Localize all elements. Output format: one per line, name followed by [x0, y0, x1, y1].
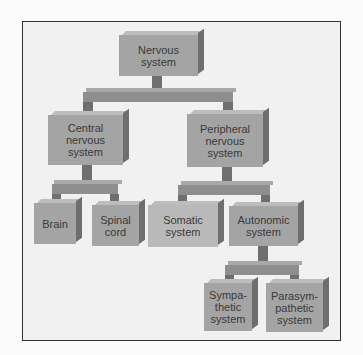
node-label: Sympa- thetic system	[209, 289, 247, 325]
connector-bar	[225, 265, 299, 275]
node-autonomic-system: Autonomic system	[229, 206, 298, 246]
node-label: Autonomic system	[238, 214, 290, 238]
node-label: Parasym- pathetic system	[271, 290, 318, 326]
node-central-nervous-system: Central nervous system	[48, 115, 123, 165]
node-peripheral-nervous-system: Peripheral nervous system	[187, 114, 263, 167]
node-sympathetic-system: Sympa- thetic system	[204, 283, 252, 331]
connector-bar	[178, 185, 270, 195]
node-label: Nervous system	[138, 44, 179, 68]
node-label: Central nervous system	[66, 122, 105, 158]
node-spinal-cord: Spinal cord	[92, 205, 139, 246]
node-nervous-system: Nervous system	[119, 35, 198, 76]
node-parasympathetic-system: Parasym- pathetic system	[266, 283, 323, 332]
connector-stem	[82, 165, 92, 181]
connector-bar	[52, 184, 118, 194]
node-brain: Brain	[34, 203, 76, 244]
node-somatic-system: Somatic system	[148, 205, 218, 247]
node-label: Brain	[42, 218, 68, 230]
node-label: Somatic system	[163, 214, 203, 238]
node-label: Peripheral nervous system	[200, 123, 250, 159]
connector-stem	[258, 246, 268, 262]
node-label: Spinal cord	[100, 214, 131, 238]
connector-bar	[83, 92, 233, 102]
